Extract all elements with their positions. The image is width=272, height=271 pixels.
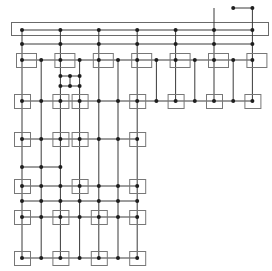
- junction-node: [39, 99, 43, 103]
- junction-node: [135, 58, 139, 62]
- junction-node: [135, 184, 139, 188]
- junction-node: [231, 6, 235, 10]
- junction-node: [212, 58, 216, 62]
- junction-node: [135, 137, 139, 141]
- junction-node: [212, 42, 216, 46]
- subgrid-node: [78, 74, 82, 78]
- junction-node: [20, 256, 24, 260]
- subgrid-node: [58, 74, 62, 78]
- boxes-layer: [15, 54, 267, 266]
- junction-node: [39, 215, 43, 219]
- junction-node: [58, 28, 62, 32]
- junction-node: [39, 58, 43, 62]
- junction-node: [174, 99, 178, 103]
- junction-node: [20, 165, 24, 169]
- junction-node: [97, 99, 101, 103]
- junction-node: [78, 215, 82, 219]
- junction-node: [174, 58, 178, 62]
- junction-node: [174, 42, 178, 46]
- junction-node: [78, 256, 82, 260]
- junction-node: [97, 42, 101, 46]
- junction-node: [231, 99, 235, 103]
- junction-node: [58, 99, 62, 103]
- junction-node: [78, 184, 82, 188]
- subgrid-node: [68, 74, 72, 78]
- junction-node: [97, 137, 101, 141]
- junction-node: [116, 184, 120, 188]
- junction-node: [212, 28, 216, 32]
- junction-node: [231, 58, 235, 62]
- junction-node: [135, 99, 139, 103]
- junction-node: [250, 99, 254, 103]
- junction-node: [193, 99, 197, 103]
- junction-node: [116, 137, 120, 141]
- junction-node: [154, 58, 158, 62]
- junction-node: [97, 215, 101, 219]
- junction-node: [58, 215, 62, 219]
- junction-node: [174, 28, 178, 32]
- junction-node: [116, 199, 120, 203]
- junction-node: [20, 42, 24, 46]
- junction-node: [58, 42, 62, 46]
- junction-node: [116, 256, 120, 260]
- junction-node: [135, 28, 139, 32]
- subgrid-node: [58, 84, 62, 88]
- junction-node: [135, 256, 139, 260]
- junction-node: [58, 199, 62, 203]
- junction-node: [20, 184, 24, 188]
- junction-node: [250, 58, 254, 62]
- junction-node: [78, 137, 82, 141]
- junction-node: [58, 256, 62, 260]
- junction-node: [20, 199, 24, 203]
- junction-node: [116, 215, 120, 219]
- junction-node: [116, 58, 120, 62]
- junction-node: [39, 165, 43, 169]
- junction-node: [58, 184, 62, 188]
- junction-node: [39, 184, 43, 188]
- junction-node: [78, 199, 82, 203]
- bus-frame-layer: [12, 23, 269, 36]
- junction-node: [250, 6, 254, 10]
- junction-node: [78, 99, 82, 103]
- subgrid-node: [68, 84, 72, 88]
- junction-node: [39, 199, 43, 203]
- junction-node: [250, 28, 254, 32]
- junction-node: [212, 99, 216, 103]
- junction-node: [58, 165, 62, 169]
- junction-node: [20, 137, 24, 141]
- junction-node: [20, 28, 24, 32]
- bus-frame: [12, 23, 269, 36]
- subgrid-node: [78, 84, 82, 88]
- junction-node: [97, 184, 101, 188]
- grid-diagram: [0, 0, 272, 271]
- junction-node: [250, 42, 254, 46]
- junction-node: [135, 42, 139, 46]
- junction-node: [58, 137, 62, 141]
- junction-node: [58, 58, 62, 62]
- junction-node: [97, 58, 101, 62]
- junction-node: [135, 215, 139, 219]
- junction-node: [20, 58, 24, 62]
- junction-node: [97, 199, 101, 203]
- junction-node: [135, 199, 139, 203]
- junction-node: [154, 99, 158, 103]
- junction-node: [78, 58, 82, 62]
- junction-node: [20, 99, 24, 103]
- junction-node: [39, 256, 43, 260]
- junction-node: [116, 99, 120, 103]
- junction-node: [20, 215, 24, 219]
- junction-node: [97, 28, 101, 32]
- junction-node: [97, 256, 101, 260]
- junction-node: [39, 137, 43, 141]
- junction-node: [193, 58, 197, 62]
